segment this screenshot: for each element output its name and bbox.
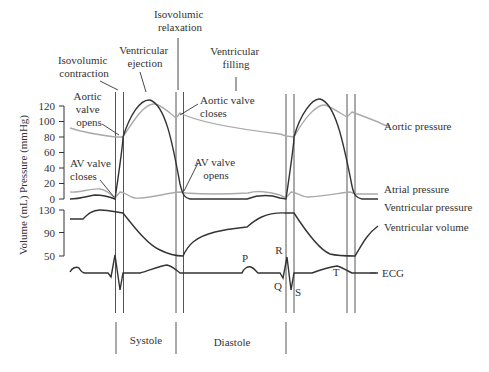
y-axis-label: Volume (mL) Pressure (mmHg) <box>17 115 30 255</box>
tick-80: 80 <box>44 131 56 143</box>
tick-90: 90 <box>44 227 56 239</box>
systole-label: Systole <box>130 334 163 346</box>
phase-lines-cycle-2 <box>286 94 355 313</box>
volume-axis: 130 90 50 <box>39 204 65 262</box>
ecg-label: ECG <box>382 267 404 279</box>
isovolumic-contraction-label: Isovolumic contraction <box>58 54 110 79</box>
ventricular-volume-curve <box>70 210 378 256</box>
aortic-valve-opens-label: Aortic valve opens <box>74 90 105 128</box>
diastole-label: Diastole <box>214 336 251 348</box>
tick-130: 130 <box>39 204 56 216</box>
tick-20: 20 <box>44 177 56 189</box>
tick-50: 50 <box>44 250 56 262</box>
tick-100: 100 <box>39 115 56 127</box>
av-valve-opens-label: AV valve opens <box>194 156 238 181</box>
aortic-pressure-label: Aortic pressure <box>384 120 452 132</box>
ventricular-ejection-label: Ventricular ejection <box>119 44 171 69</box>
av-valve-closes-label: AV valve closes <box>70 157 114 182</box>
isovolumic-relaxation-label: Isovolumic relaxation <box>154 8 206 33</box>
ecg-t-label: T <box>333 266 340 278</box>
ecg-p-label: P <box>242 252 248 264</box>
ventricular-volume-label: Ventricular volume <box>384 221 469 233</box>
bottom-phase-bar: Systole Diastole <box>116 322 286 354</box>
ecg-q-label: Q <box>274 280 282 292</box>
aortic-valve-closes-label: Aortic valve closes <box>200 94 257 119</box>
ventricular-filling-label: Ventricular filling <box>210 45 262 70</box>
ecg-r-label: R <box>275 244 283 256</box>
tick-120: 120 <box>39 100 56 112</box>
phase-lines-cycle-1 <box>116 92 184 313</box>
ventricular-pressure-label: Ventricular pressure <box>384 201 472 213</box>
ecg-s-label: S <box>295 286 301 298</box>
pressure-axis: 120 100 80 60 40 20 0 <box>39 100 65 205</box>
wiggers-diagram: Volume (mL) Pressure (mmHg) 120 100 80 6… <box>0 0 489 372</box>
tick-60: 60 <box>44 146 56 158</box>
atrial-pressure-label: Atrial pressure <box>384 183 449 195</box>
tick-40: 40 <box>44 162 56 174</box>
